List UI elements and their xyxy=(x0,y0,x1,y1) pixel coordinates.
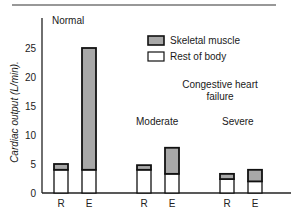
y-tick-label: 10 xyxy=(25,130,37,141)
x-tick-label: E xyxy=(169,198,176,209)
y-tick-label: 20 xyxy=(25,72,37,83)
segment-rest-of-body xyxy=(165,174,179,193)
segment-rest-of-body xyxy=(137,170,151,193)
y-tick-label: 15 xyxy=(25,101,37,112)
annotation-chf-line1: Congestive heart xyxy=(170,79,270,90)
segment-skeletal-muscle xyxy=(137,165,151,170)
x-tick-label: R xyxy=(140,198,147,209)
segment-skeletal-muscle xyxy=(165,148,179,174)
legend-label-skeletal-muscle: Skeletal muscle xyxy=(170,35,240,46)
annotation-chf-line2: failure xyxy=(170,91,270,102)
y-tick-label: 0 xyxy=(30,188,36,199)
segment-rest-of-body xyxy=(54,170,68,193)
bar-severe-e xyxy=(248,170,262,193)
stacked-bar-chart: 0510152025 RERERE Cardiac output (L/min)… xyxy=(0,0,303,220)
legend-label-rest-of-body: Rest of body xyxy=(170,51,226,62)
segment-skeletal-muscle xyxy=(54,164,68,170)
y-tick-labels: 0510152025 xyxy=(25,43,37,199)
segment-skeletal-muscle xyxy=(82,48,96,170)
x-tick-label: E xyxy=(86,198,93,209)
plot-area: 0510152025 RERERE xyxy=(0,0,303,220)
x-tick-labels: RERERE xyxy=(57,198,258,209)
group-label-severe: Severe xyxy=(222,116,254,127)
legend-swatch-rest-of-body xyxy=(148,52,164,61)
segment-rest-of-body xyxy=(220,179,234,193)
bar-moderate-e xyxy=(165,148,179,193)
segment-rest-of-body xyxy=(248,181,262,193)
bar-normal-r xyxy=(54,164,68,193)
group-label-normal: Normal xyxy=(52,15,84,26)
bar-severe-r xyxy=(220,174,234,193)
bar-normal-e xyxy=(82,48,96,193)
x-tick-label: E xyxy=(252,198,259,209)
x-tick-label: R xyxy=(57,198,64,209)
x-tick-label: R xyxy=(223,198,230,209)
legend-swatch-skeletal-muscle xyxy=(148,36,164,45)
y-axis-label: Cardiac output (L/min). xyxy=(9,61,20,163)
segment-rest-of-body xyxy=(82,170,96,193)
bar-moderate-r xyxy=(137,165,151,193)
y-tick-label: 25 xyxy=(25,43,37,54)
group-label-moderate: Moderate xyxy=(136,116,178,127)
segment-skeletal-muscle xyxy=(248,170,262,182)
y-tick-label: 5 xyxy=(30,159,36,170)
segment-skeletal-muscle xyxy=(220,174,234,179)
